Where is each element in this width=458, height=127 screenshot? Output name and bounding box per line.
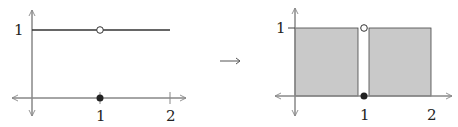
filled-dot-icon bbox=[361, 93, 368, 100]
right-x-label-2: 2 bbox=[427, 106, 437, 124]
transform-arrow bbox=[220, 58, 240, 64]
shaded-region-right bbox=[369, 28, 431, 96]
left-y-label-1: 1 bbox=[14, 21, 24, 39]
left-x-label-2: 2 bbox=[166, 107, 176, 125]
right-graph: 1 1 2 bbox=[275, 8, 452, 124]
left-x-label-1: 1 bbox=[96, 107, 106, 125]
filled-dot-icon bbox=[97, 95, 104, 102]
diagram-canvas: 1 1 2 1 1 2 bbox=[0, 0, 458, 127]
left-graph: 1 1 2 bbox=[12, 10, 186, 125]
open-circle-icon bbox=[97, 27, 104, 34]
right-x-label-1: 1 bbox=[360, 106, 370, 124]
right-y-label-1: 1 bbox=[276, 19, 286, 37]
open-circle-icon bbox=[361, 25, 368, 32]
shaded-region-left bbox=[295, 28, 358, 96]
